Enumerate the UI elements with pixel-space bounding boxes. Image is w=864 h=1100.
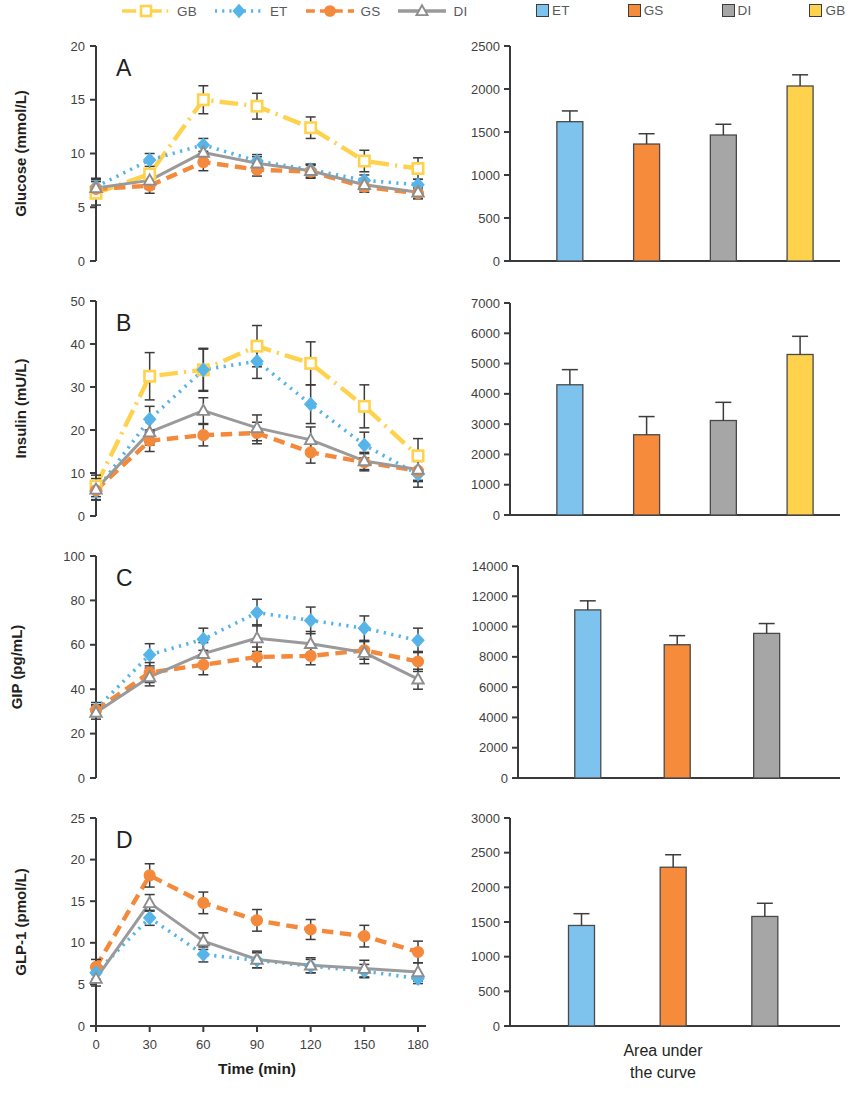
legend-swatch-et-icon bbox=[536, 4, 549, 17]
panel-c-line-chart: 020406080100GIP (pg/mL)C bbox=[0, 538, 440, 800]
svg-text:500: 500 bbox=[478, 211, 500, 226]
panel-d-line-chart: 05101520250306090120150180Time (min)GLP-… bbox=[0, 800, 440, 1100]
svg-text:0: 0 bbox=[501, 771, 508, 786]
svg-text:2500: 2500 bbox=[471, 39, 500, 54]
panel-letter: B bbox=[116, 310, 131, 336]
svg-text:500: 500 bbox=[478, 984, 500, 999]
svg-text:1000: 1000 bbox=[471, 949, 500, 964]
svg-text:60: 60 bbox=[196, 1037, 210, 1052]
bar-gs bbox=[664, 636, 690, 778]
svg-text:40: 40 bbox=[71, 337, 85, 352]
y-axis-title: GLP-1 (pmol/L) bbox=[12, 868, 29, 976]
legend-label-bar-di: DI bbox=[738, 3, 752, 18]
legend-label-di: DI bbox=[453, 4, 467, 19]
svg-text:5: 5 bbox=[78, 200, 85, 215]
bar-et bbox=[557, 111, 583, 261]
bar-series-legend: ETGSDIGB bbox=[536, 3, 845, 18]
svg-text:0: 0 bbox=[493, 508, 500, 523]
svg-text:10: 10 bbox=[71, 466, 85, 481]
legend-item-line-gs: GS bbox=[304, 3, 381, 19]
svg-text:0: 0 bbox=[493, 1019, 500, 1034]
svg-text:12000: 12000 bbox=[472, 589, 508, 604]
bar-gs bbox=[660, 855, 686, 1026]
svg-text:120: 120 bbox=[300, 1037, 322, 1052]
figure-root: GBETGSDI ETGSDIGB 05101520Glucose (mmol/… bbox=[0, 0, 864, 1100]
svg-text:0: 0 bbox=[92, 1037, 99, 1052]
legend-symbol-di-icon bbox=[396, 3, 448, 19]
svg-text:2000: 2000 bbox=[479, 740, 508, 755]
svg-text:30: 30 bbox=[71, 380, 85, 395]
legend-label-bar-gb: GB bbox=[825, 3, 845, 18]
legend-item-line-di: DI bbox=[396, 3, 467, 19]
bar-gb bbox=[787, 336, 813, 515]
line-series-legend: GBETGSDI bbox=[120, 3, 483, 19]
svg-text:2000: 2000 bbox=[471, 447, 500, 462]
auc-axis-label-line-1: the curve bbox=[630, 1064, 696, 1081]
svg-text:6000: 6000 bbox=[471, 326, 500, 341]
svg-text:20: 20 bbox=[71, 39, 85, 54]
svg-text:80: 80 bbox=[71, 593, 85, 608]
legend-item-line-et: ET bbox=[213, 3, 288, 19]
svg-text:5000: 5000 bbox=[471, 356, 500, 371]
panel-letter: A bbox=[116, 55, 132, 81]
svg-text:15: 15 bbox=[71, 894, 85, 909]
bar-di bbox=[710, 402, 736, 515]
svg-text:10: 10 bbox=[71, 935, 85, 950]
svg-text:3000: 3000 bbox=[471, 417, 500, 432]
bar-et bbox=[569, 914, 595, 1026]
bar-gs bbox=[634, 134, 660, 261]
legend-swatch-gs-icon bbox=[628, 4, 641, 17]
svg-text:90: 90 bbox=[250, 1037, 264, 1052]
svg-text:6000: 6000 bbox=[479, 680, 508, 695]
panel-letter: D bbox=[116, 827, 133, 853]
y-axis-title: Insulin (mU/L) bbox=[12, 359, 29, 459]
bar-di bbox=[710, 124, 736, 261]
svg-text:1500: 1500 bbox=[471, 125, 500, 140]
svg-text:8000: 8000 bbox=[479, 649, 508, 664]
panel-letter: C bbox=[116, 565, 133, 591]
svg-text:0: 0 bbox=[78, 254, 85, 269]
bar-gs bbox=[634, 417, 660, 515]
svg-text:20: 20 bbox=[71, 423, 85, 438]
panel-c-auc-chart: 02000400060008000100001200014000 bbox=[440, 538, 864, 800]
legend-item-bar-et: ET bbox=[536, 3, 570, 18]
legend-item-bar-di: DI bbox=[722, 3, 752, 18]
svg-text:1500: 1500 bbox=[471, 915, 500, 930]
svg-text:14000: 14000 bbox=[472, 559, 508, 574]
panel-a-line-chart: 05101520Glucose (mmol/L)A bbox=[0, 28, 440, 283]
bar-et bbox=[557, 370, 583, 515]
svg-text:3000: 3000 bbox=[471, 811, 500, 826]
svg-text:1000: 1000 bbox=[471, 168, 500, 183]
series-di bbox=[91, 895, 423, 987]
legend-swatch-di-icon bbox=[722, 4, 735, 17]
svg-text:2000: 2000 bbox=[471, 82, 500, 97]
svg-text:20: 20 bbox=[71, 852, 85, 867]
legend-symbol-et-icon bbox=[213, 3, 265, 19]
svg-text:10000: 10000 bbox=[472, 619, 508, 634]
bar-gb bbox=[787, 75, 813, 261]
svg-text:0: 0 bbox=[493, 254, 500, 269]
svg-text:100: 100 bbox=[63, 549, 85, 564]
bar-di bbox=[754, 624, 780, 778]
y-axis-title: GIP (pg/mL) bbox=[8, 625, 25, 710]
svg-text:15: 15 bbox=[71, 92, 85, 107]
svg-text:30: 30 bbox=[142, 1037, 156, 1052]
bar-di bbox=[752, 903, 778, 1026]
svg-text:10: 10 bbox=[71, 146, 85, 161]
legend-symbol-gs-icon bbox=[304, 3, 356, 19]
svg-text:25: 25 bbox=[71, 811, 85, 826]
legend-item-bar-gb: GB bbox=[809, 3, 845, 18]
svg-text:50: 50 bbox=[71, 294, 85, 309]
panel-b-line-chart: 01020304050Insulin (mU/L)B bbox=[0, 283, 440, 538]
legend-item-line-gb: GB bbox=[120, 3, 197, 19]
bar-et bbox=[575, 601, 601, 778]
svg-text:7000: 7000 bbox=[471, 296, 500, 311]
svg-text:2000: 2000 bbox=[471, 880, 500, 895]
svg-text:1000: 1000 bbox=[471, 477, 500, 492]
y-axis-title: Glucose (mmol/L) bbox=[12, 90, 29, 217]
svg-text:0: 0 bbox=[78, 509, 85, 524]
legend-label-bar-et: ET bbox=[552, 3, 570, 18]
legend-label-bar-gs: GS bbox=[644, 3, 664, 18]
legend-label-gs: GS bbox=[361, 4, 381, 19]
svg-text:4000: 4000 bbox=[479, 710, 508, 725]
